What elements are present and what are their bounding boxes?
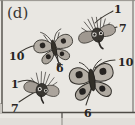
figure-panel-d: (d) 1 7 10 6 1 7 10 6 xyxy=(0,0,135,125)
annotation-6-bottom-right: 6 xyxy=(84,108,92,119)
annotation-1-top-right: 1 xyxy=(114,4,122,15)
butterfly-bottom-right xyxy=(67,58,116,101)
annotation-1-bottom-left: 1 xyxy=(11,79,19,90)
annotation-7-top-right: 7 xyxy=(119,23,127,34)
moth-top-right xyxy=(73,11,120,54)
panel-letter-label: (d) xyxy=(7,6,28,21)
butterfly-center-left xyxy=(31,26,77,70)
annotation-10-bottom-right: 10 xyxy=(118,57,133,68)
annotation-6-center-left: 6 xyxy=(56,63,64,74)
annotation-7-bottom-left: 7 xyxy=(11,103,19,114)
annotation-10-center-left: 10 xyxy=(9,51,24,62)
